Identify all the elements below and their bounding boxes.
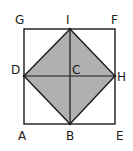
label-h: H [117, 70, 126, 84]
label-a: A [18, 129, 27, 143]
label-c: C [72, 63, 80, 77]
vertex-dot-i [69, 28, 72, 31]
label-e: E [116, 129, 124, 143]
vertex-dot-h [114, 75, 117, 78]
label-i: I [66, 13, 70, 27]
label-g: G [15, 13, 24, 27]
label-b: B [66, 129, 74, 143]
vertex-dot-d [23, 75, 26, 78]
label-d: D [11, 63, 20, 77]
geometry-diagram: G I F D C H A B E [0, 0, 133, 151]
label-f: F [111, 13, 118, 27]
vertex-dot-b [69, 123, 72, 126]
